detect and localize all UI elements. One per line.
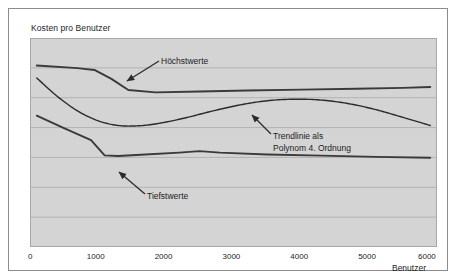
chart-figure: Kosten pro Benutzer xyxy=(0,0,457,280)
series-lines xyxy=(37,65,430,157)
chart-title: Kosten pro Benutzer xyxy=(31,23,110,33)
series-line-trendlinie xyxy=(37,78,430,126)
x-tick-label: 2000 xyxy=(155,252,173,261)
plot-svg xyxy=(30,38,437,247)
annotation-label-trendlinie: Trendlinie alsPolynom 4. Ordnung xyxy=(273,131,351,154)
x-tick-label: 1000 xyxy=(87,252,105,261)
chart-frame: Kosten pro Benutzer xyxy=(8,8,448,271)
x-tick-label: 6000 xyxy=(418,252,436,261)
series-line-hoechstwerte xyxy=(37,65,430,92)
x-tick-label: 4000 xyxy=(290,252,308,261)
x-tick-label: 0 xyxy=(28,252,32,261)
trend-label-line-2: Polynom 4. Ordnung xyxy=(273,143,351,153)
x-tick-label: 5000 xyxy=(358,252,376,261)
annotation-label-tiefstwerte: Tiefstwerte xyxy=(147,191,188,203)
series-line-tiefstwerte xyxy=(37,116,430,158)
x-tick-label: 3000 xyxy=(223,252,241,261)
x-axis-label: Benutzer xyxy=(392,263,426,273)
annotation-label-hoechstwerte: Höchstwerte xyxy=(161,56,208,68)
trend-label-line-1: Trendlinie als xyxy=(273,131,323,141)
